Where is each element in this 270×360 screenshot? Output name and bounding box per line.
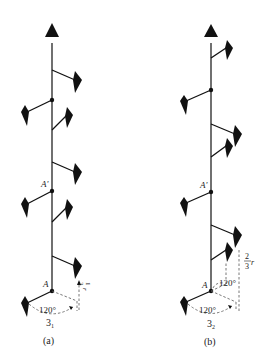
motif-flag-icon [180, 197, 188, 217]
motif-flag-icon [73, 163, 82, 185]
motif-flag-icon [225, 242, 233, 262]
svg-text:3: 3 [77, 282, 85, 286]
threefold-axis-triangle-icon [204, 24, 218, 37]
motif-flag-icon [65, 199, 73, 220]
helix-symbol: 32 [207, 318, 215, 330]
motif-arm [211, 48, 226, 58]
angle-label-2: 120° [199, 305, 217, 315]
motif-flag-icon [73, 257, 82, 279]
motif-flag-icon [225, 40, 233, 60]
motif-arm [211, 225, 235, 235]
motif-arm [27, 191, 52, 204]
motif-arm [186, 291, 211, 302]
motif-flag-icon [180, 95, 188, 115]
figure-caption-b: (b) [204, 336, 216, 348]
motif-flag-icon [73, 71, 82, 93]
helix-symbol: 31 [46, 317, 54, 329]
point-a-label: A [201, 280, 208, 290]
motif-flag-icon [180, 296, 188, 316]
screw-axis-diagram: A' A 120° 1 3 r 31 (a) [0, 0, 270, 360]
motif-arm [27, 100, 52, 112]
motif-flag-icon [233, 226, 242, 248]
motif-arm [211, 124, 235, 134]
motif-flag-icon [21, 197, 29, 218]
motif-flag-icon [225, 138, 233, 158]
point-a-prime-label: A' [199, 180, 208, 190]
motif-arm [211, 146, 226, 157]
motif-arm [211, 250, 226, 260]
motif-arm [52, 256, 75, 266]
svg-text:r: r [251, 258, 255, 267]
motif-arm [52, 208, 66, 222]
figure-b: A' A 120° 120° 2 3 r 3 [180, 24, 255, 348]
figure-caption-a: (a) [43, 335, 54, 347]
rise-fraction-label: 2 3 r [244, 252, 255, 271]
motif-flag-icon [21, 105, 29, 126]
svg-text:3: 3 [245, 262, 249, 271]
motif-arm [52, 70, 75, 80]
svg-text:2: 2 [245, 252, 249, 261]
rotation-radius-dashed [211, 291, 236, 302]
svg-text:r: r [81, 288, 89, 291]
motif-flag-icon [233, 125, 242, 147]
figure-a: A' A 120° 1 3 r 31 (a) [21, 23, 92, 347]
point-a-prime-label: A' [40, 179, 49, 189]
arc-arrowhead-icon [228, 305, 232, 309]
motif-arm [52, 162, 75, 172]
motif-arm [186, 192, 211, 203]
motif-arm [186, 90, 211, 101]
motif-flag-icon [21, 296, 29, 317]
motif-arm [52, 116, 66, 130]
angle-label-1: 120° [219, 278, 237, 288]
motif-arm [27, 291, 52, 303]
threefold-axis-triangle-icon [45, 23, 59, 37]
point-a-label: A [42, 279, 49, 289]
angle-label: 120° [39, 305, 57, 315]
arc-arrowhead-icon [69, 306, 73, 310]
motif-flag-icon [65, 107, 73, 128]
rotation-radius-dashed [52, 291, 77, 301]
